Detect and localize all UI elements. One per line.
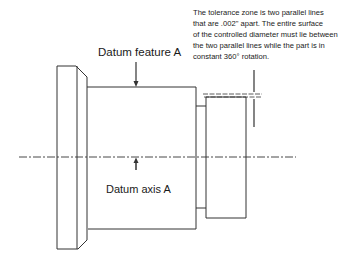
note-line: of the controlled diameter must lie betw… bbox=[193, 29, 361, 40]
tolerance-note: The tolerance zone is two parallel lines… bbox=[193, 7, 361, 62]
note-line: that are .002" apart. The entire surface bbox=[193, 18, 361, 29]
controlled-diameter bbox=[206, 97, 246, 218]
datum-axis-arrowhead bbox=[134, 158, 139, 164]
datum-feature-arrowhead bbox=[134, 81, 139, 87]
datum-feature-label: Datum feature A bbox=[98, 46, 181, 58]
note-line: the two parallel lines while the part is… bbox=[193, 40, 361, 51]
datum-axis-label: Datum axis A bbox=[106, 183, 171, 195]
datum-feature-body bbox=[87, 87, 196, 229]
note-line: The tolerance zone is two parallel lines bbox=[193, 7, 361, 18]
flange bbox=[57, 66, 87, 249]
note-line: constant 360° rotation. bbox=[193, 51, 361, 62]
